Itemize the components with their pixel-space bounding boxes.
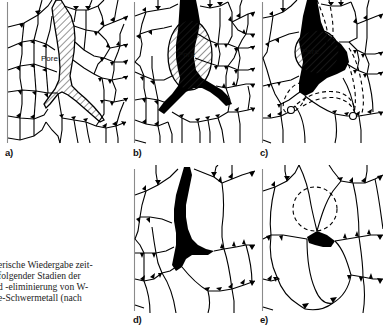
pore-label-b: Pore <box>178 51 195 59</box>
panel-d <box>128 165 255 313</box>
panel-d-drawing <box>128 165 255 313</box>
panel-label-a: a) <box>5 148 13 158</box>
panel-b: Pore <box>128 0 255 146</box>
panel-a-drawing <box>0 0 128 146</box>
pore-label-a: Pore <box>41 55 58 63</box>
panel-e-drawing <box>255 165 383 313</box>
panel-label-e: e) <box>260 315 268 325</box>
panel-c-drawing <box>255 0 383 146</box>
caption-line-1: erische Wiedergabe zeit- <box>0 259 120 270</box>
figure-root: Pore a) <box>0 0 383 328</box>
panel-a: Pore <box>0 0 128 146</box>
panel-c: Pore <box>255 0 383 146</box>
pinch-node-left-c <box>288 107 295 114</box>
panel-label-b: b) <box>133 148 142 158</box>
panel-b-drawing <box>128 0 255 146</box>
caption-line-4: e-Schwermetall (nach <box>0 292 120 303</box>
pinch-node-right-c <box>350 113 357 120</box>
caption-line-2-text: folgender Stadien der <box>0 270 81 281</box>
figure-caption: erische Wiedergabe zeit- folgender Stadi… <box>0 259 120 303</box>
caption-line-3: d -eliminierung von W- <box>0 281 120 292</box>
panel-e <box>255 165 383 313</box>
pore-label-c: Pore <box>302 48 319 56</box>
panel-label-c: c) <box>260 148 268 158</box>
caption-line-2: folgender Stadien der <box>0 270 120 281</box>
panel-label-d: d) <box>133 315 142 325</box>
